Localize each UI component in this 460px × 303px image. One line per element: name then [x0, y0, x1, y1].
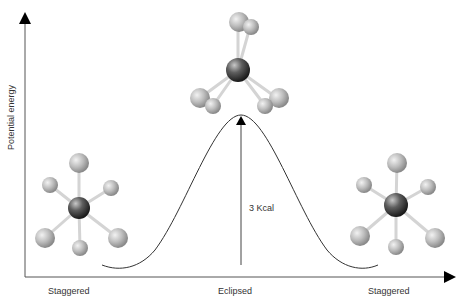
x-axis	[25, 271, 456, 283]
y-axis-label: Potential energy	[6, 85, 16, 150]
x-label-staggered-left: Staggered	[48, 286, 90, 296]
y-axis	[19, 12, 31, 277]
staggered-molecule-left	[35, 153, 128, 256]
staggered-molecule-right	[350, 153, 445, 255]
barrier-label: 3 Kcal	[249, 203, 274, 213]
x-label-eclipsed: Eclipsed	[218, 286, 252, 296]
energy-diagram	[0, 0, 460, 303]
energy-curve	[102, 115, 378, 268]
eclipsed-molecule	[190, 12, 289, 114]
barrier-arrow	[236, 116, 246, 265]
x-label-staggered-right: Staggered	[368, 286, 410, 296]
